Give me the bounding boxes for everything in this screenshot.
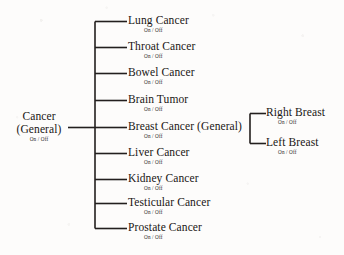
node-label: Breast Cancer (General)	[128, 120, 242, 132]
node-state-toggle[interactable]: On / Off	[144, 27, 189, 34]
node-label: Kidney Cancer	[128, 172, 199, 184]
node-kidney-cancer[interactable]: Kidney Cancer On / Off	[128, 172, 199, 192]
node-label-line1: Cancer	[8, 110, 70, 123]
node-label: Lung Cancer	[128, 14, 189, 26]
node-state-toggle[interactable]: On / Off	[144, 159, 190, 166]
node-brain-tumor[interactable]: Brain Tumor On / Off	[128, 93, 188, 113]
node-state-toggle[interactable]: On / Off	[144, 185, 199, 192]
node-label: Brain Tumor	[128, 93, 188, 105]
node-state-toggle[interactable]: On / Off	[144, 133, 242, 140]
node-label: Throat Cancer	[128, 40, 195, 52]
node-label: Bowel Cancer	[128, 66, 195, 78]
tree-diagram: Cancer (General) On / Off Lung Cancer On…	[0, 0, 344, 255]
node-testicular-cancer[interactable]: Testicular Cancer On / Off	[128, 196, 210, 216]
node-breast-cancer-general[interactable]: Breast Cancer (General) On / Off	[128, 120, 242, 140]
node-label: Left Breast	[266, 136, 319, 148]
node-left-breast[interactable]: Left Breast On / Off	[266, 136, 319, 156]
node-label-line2: (General)	[8, 123, 70, 136]
node-label: Right Breast	[266, 106, 325, 118]
node-state-toggle[interactable]: On / Off	[144, 106, 188, 113]
node-lung-cancer[interactable]: Lung Cancer On / Off	[128, 14, 189, 34]
node-state-toggle[interactable]: On / Off	[144, 234, 202, 241]
node-state-toggle[interactable]: On / Off	[278, 149, 319, 156]
node-label: Liver Cancer	[128, 146, 190, 158]
node-state-toggle[interactable]: On / Off	[278, 119, 325, 126]
node-cancer-general[interactable]: Cancer (General) On / Off	[8, 110, 70, 143]
node-right-breast[interactable]: Right Breast On / Off	[266, 106, 325, 126]
node-state-toggle[interactable]: On / Off	[144, 53, 195, 60]
node-throat-cancer[interactable]: Throat Cancer On / Off	[128, 40, 195, 60]
node-label: Testicular Cancer	[128, 196, 210, 208]
node-state-toggle[interactable]: On / Off	[144, 79, 195, 86]
node-state-toggle[interactable]: On / Off	[8, 136, 70, 143]
node-prostate-cancer[interactable]: Prostate Cancer On / Off	[128, 221, 202, 241]
node-state-toggle[interactable]: On / Off	[144, 209, 210, 216]
node-bowel-cancer[interactable]: Bowel Cancer On / Off	[128, 66, 195, 86]
node-label: Prostate Cancer	[128, 221, 202, 233]
node-liver-cancer[interactable]: Liver Cancer On / Off	[128, 146, 190, 166]
